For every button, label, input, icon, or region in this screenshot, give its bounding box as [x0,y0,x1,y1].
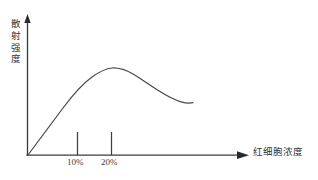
y-axis-label-char-1: 散 [9,19,23,31]
x-tick-label-20-percent: 20% [101,158,118,167]
scattering-intensity-curve [28,68,193,155]
x-axis-arrow-icon [237,151,249,159]
y-axis-label-char-2: 射 [9,31,23,43]
y-axis-label-char-3: 强 [9,43,23,55]
x-axis-label: 红细胞浓度 [253,148,303,158]
y-axis-label: 散 射 强 度 [9,19,23,66]
scattering-intensity-chart: 散 射 强 度 红细胞浓度 10% 20% [0,0,318,180]
x-tick-label-10-percent: 10% [67,158,84,167]
y-axis-label-char-4: 度 [9,54,23,66]
y-axis-arrow-icon [24,14,30,23]
